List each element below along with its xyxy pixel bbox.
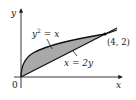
parabola-label: y2 = x: [31, 27, 59, 39]
intersection-label: (4, 2): [107, 37, 130, 47]
intersection-point: [103, 32, 106, 35]
line-label-pointer: [73, 51, 77, 56]
line-label: x = 2y: [64, 58, 94, 68]
region-between-curves-diagram: y x 0 y2 = x x = 2y (4, 2): [0, 0, 136, 100]
y-axis-label: y: [10, 8, 17, 18]
origin-label: 0: [12, 80, 18, 90]
x-axis-label: x: [116, 80, 121, 90]
